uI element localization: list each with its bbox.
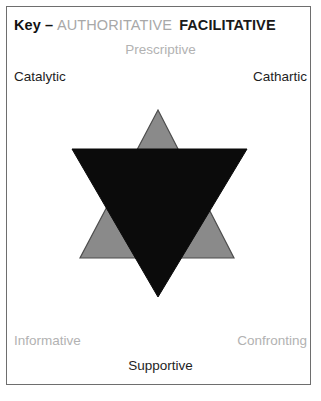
label-cathartic: Cathartic (253, 69, 307, 84)
key-legend-facilitative: FACILITATIVE (179, 17, 276, 33)
label-prescriptive: Prescriptive (0, 42, 321, 57)
key-legend-label: Key (14, 17, 41, 33)
label-catalytic: Catalytic (14, 69, 66, 84)
label-informative: Informative (14, 333, 81, 348)
key-legend-dash: – (45, 17, 53, 33)
key-legend: Key – AUTHORITATIVE FACILITATIVE (14, 14, 304, 36)
label-confronting: Confronting (237, 333, 307, 348)
label-supportive: Supportive (0, 358, 321, 373)
six-category-intervention-diagram: Key – AUTHORITATIVE FACILITATIVE Prescri… (0, 0, 321, 401)
figure-frame (6, 6, 311, 385)
key-legend-authoritative: AUTHORITATIVE (57, 17, 172, 33)
